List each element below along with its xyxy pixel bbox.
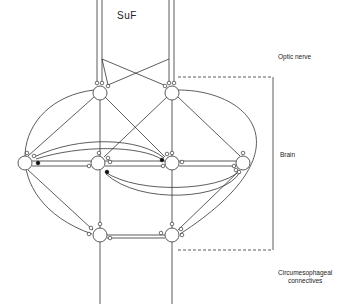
neuron-mid-left (91, 156, 105, 170)
neuron-mid-right (165, 156, 179, 170)
neuron-bottom-right (165, 228, 179, 242)
circumesophageal-label: Circumesophageal connectives (278, 269, 332, 285)
neural-circuit-diagram: SuF Optic nerve Brain Circumesophageal c… (0, 0, 359, 304)
suf-label: SuF (117, 10, 137, 21)
excitatory-synapses (25, 81, 245, 240)
neuron-bottom-left (93, 228, 107, 242)
neuron-mid-far-right (236, 156, 250, 170)
circuit-drawing (0, 0, 359, 304)
neuron-top-left (93, 86, 107, 100)
circumesophageal-line1: Circumesophageal (278, 269, 332, 277)
neuron-mid-far-left (18, 156, 32, 170)
diagonal-connections (28, 97, 240, 230)
circumesophageal-line2: connectives (278, 277, 332, 285)
neuron-top-right (165, 86, 179, 100)
vertical-axons (100, 100, 172, 304)
region-bracket (178, 77, 273, 250)
optic-nerve-label: Optic nerve (278, 53, 311, 60)
outer-loops (25, 90, 256, 234)
horizontal-connections (32, 142, 240, 238)
neurons (18, 86, 250, 242)
brain-label: Brain (280, 151, 295, 158)
